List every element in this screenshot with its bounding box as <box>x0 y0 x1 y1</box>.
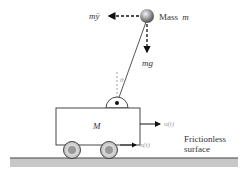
pendulum-bob <box>140 9 154 23</box>
mass-label: Mass m <box>159 12 189 22</box>
surface-label-line1: Frictionless <box>184 134 226 144</box>
position-label: x(t) <box>139 141 150 149</box>
surface-label-line2: surface <box>184 144 210 154</box>
gravity-force-label: mg <box>142 58 153 68</box>
wheel-right <box>101 142 118 159</box>
pivot-mount <box>106 97 128 108</box>
input-force-label: u(t) <box>164 120 175 128</box>
inertial-force-label: mÿ <box>89 11 100 21</box>
angle-label: θ <box>120 76 124 84</box>
pendulum-cart-diagram: θ M u(t) x(t) Frictionless surface Mass … <box>0 0 250 171</box>
cart-label: M <box>92 121 101 131</box>
ground <box>10 158 238 167</box>
wheel-left <box>64 142 81 159</box>
